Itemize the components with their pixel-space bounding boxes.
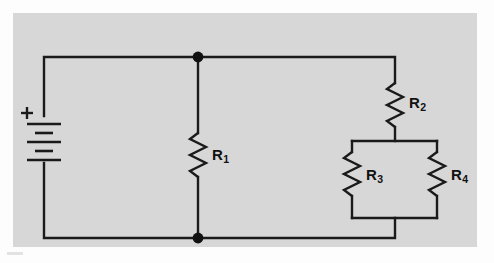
- label-r3-letter: R: [366, 166, 377, 183]
- label-r2-letter: R: [409, 94, 420, 111]
- junction-dot-top: [193, 52, 204, 63]
- resistor-r1-symbol: [190, 133, 206, 177]
- polarity-plus-icon: [21, 107, 33, 119]
- label-r4-letter: R: [451, 166, 462, 183]
- wire-bottom-right: [198, 218, 395, 238]
- resistor-r2-symbol: [387, 83, 403, 127]
- label-r3-subscript: 3: [377, 173, 383, 185]
- wire-top-right: [198, 57, 395, 83]
- label-r3: R3: [366, 167, 383, 182]
- label-r1-letter: R: [212, 146, 223, 163]
- resistor-r3-symbol: [344, 152, 360, 196]
- label-r2-subscript: 2: [420, 101, 426, 113]
- label-r1: R1: [212, 147, 229, 162]
- label-r4: R4: [451, 167, 468, 182]
- wire-top-left: [44, 57, 198, 116]
- label-r4-subscript: 4: [462, 173, 468, 185]
- schematic-canvas: [0, 0, 494, 263]
- page-corner-artifact: [7, 252, 23, 255]
- circuit-diagram-screenshot: R1 R2 R3 R4: [0, 0, 494, 263]
- resistor-r4-symbol: [429, 152, 445, 196]
- label-r2: R2: [409, 95, 426, 110]
- wire-bottom-left: [44, 163, 198, 238]
- junction-dot-bottom: [193, 233, 204, 244]
- label-r1-subscript: 1: [223, 153, 229, 165]
